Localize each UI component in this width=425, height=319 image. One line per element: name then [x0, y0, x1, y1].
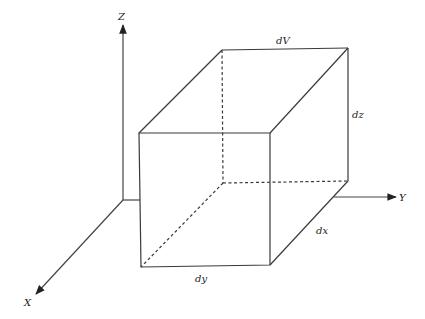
edge-top-back: [222, 48, 348, 50]
labels: Z X Y dV dz dx dy: [23, 11, 407, 308]
edge-top-left-diagonal: [139, 50, 222, 133]
hidden-edge-back-left-vertical: [222, 50, 223, 183]
hidden-edge-back-bottom: [223, 181, 348, 183]
volume-label: dV: [276, 35, 291, 46]
x-axis: [36, 200, 123, 294]
edge-bottom-right-diagonal: [270, 181, 348, 265]
x-axis-label: X: [23, 297, 32, 308]
front-face: [139, 133, 270, 267]
y-axis-label: Y: [399, 192, 407, 203]
depth-label: dx: [316, 225, 328, 236]
edge-top-right-diagonal: [270, 48, 348, 133]
axes: [36, 25, 396, 294]
height-label: dz: [352, 109, 364, 120]
width-label: dy: [195, 273, 207, 284]
hidden-edge-bottom-left-diagonal: [141, 183, 223, 267]
z-axis-label: Z: [117, 11, 126, 22]
volume-element-diagram: Z X Y dV dz dx dy: [0, 0, 425, 319]
